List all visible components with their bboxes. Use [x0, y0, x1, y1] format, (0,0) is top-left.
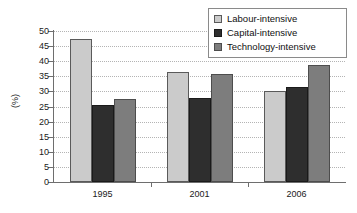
legend-item-label: Technology-intensive [227, 42, 316, 52]
bar [189, 98, 211, 182]
legend-swatch-icon [214, 29, 222, 37]
bar [308, 65, 330, 182]
y-axis-tick-label: 40 [25, 57, 49, 66]
bar [264, 91, 286, 183]
legend-swatch-icon [214, 15, 222, 23]
bar-chart: 05101520253035404550 (%) 199520012006 La… [0, 0, 357, 213]
bar [286, 87, 308, 182]
y-axis-tick-label: 50 [25, 27, 49, 36]
legend-item-label: Capital-intensive [227, 28, 297, 38]
legend-item: Capital-intensive [214, 26, 341, 39]
legend-swatch-icon [214, 43, 222, 51]
y-axis-tick-label: 25 [25, 103, 49, 112]
y-axis-tick-label: 10 [25, 148, 49, 157]
x-axis-category-label: 2001 [170, 189, 230, 200]
x-axis-line [53, 182, 346, 183]
y-axis-tick-label: 45 [25, 42, 49, 51]
bar [211, 74, 233, 182]
y-axis-tick-label: 0 [25, 178, 49, 187]
y-axis-tick-label: 5 [25, 163, 49, 172]
legend: Labour-intensive Capital-intensive Techn… [208, 8, 347, 58]
bar [114, 99, 136, 182]
x-axis-category-label: 1995 [73, 189, 133, 200]
x-axis-category-label: 2006 [267, 189, 327, 200]
legend-item: Technology-intensive [214, 40, 341, 53]
y-axis-tick-label: 15 [25, 133, 49, 142]
x-axis-tick [248, 183, 249, 187]
legend-item: Labour-intensive [214, 12, 341, 25]
bar [70, 39, 92, 182]
legend-item-label: Labour-intensive [227, 14, 297, 24]
bar [167, 72, 189, 182]
y-axis-title: (%) [10, 94, 20, 108]
y-axis-tick-label: 30 [25, 87, 49, 96]
y-axis-tick-label: 20 [25, 118, 49, 127]
y-axis-tick-label: 35 [25, 72, 49, 81]
x-axis-tick [151, 183, 152, 187]
bar [92, 105, 114, 182]
